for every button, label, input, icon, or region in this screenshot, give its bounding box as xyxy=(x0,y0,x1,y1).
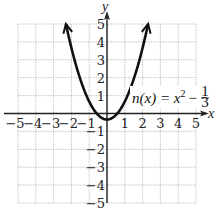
y-axis-label: y xyxy=(100,0,109,14)
svg-text:4: 4 xyxy=(97,35,105,50)
svg-text:3: 3 xyxy=(156,116,164,131)
svg-text:−5: −5 xyxy=(86,196,105,211)
svg-text:4: 4 xyxy=(174,116,182,131)
svg-text:−4: −4 xyxy=(86,178,105,193)
svg-text:5: 5 xyxy=(192,116,200,131)
svg-text:2: 2 xyxy=(97,71,105,86)
svg-text:−4: −4 xyxy=(23,116,42,131)
svg-text:−3: −3 xyxy=(86,160,105,175)
svg-text:−5: −5 xyxy=(5,116,24,131)
function-lhs: n(x) = x xyxy=(132,90,181,107)
svg-text:−2: −2 xyxy=(59,116,78,131)
function-exponent: 2 xyxy=(180,88,185,99)
svg-text:1: 1 xyxy=(121,116,129,131)
svg-text:−2: −2 xyxy=(86,142,105,157)
svg-text:1: 1 xyxy=(97,89,105,104)
function-label: n(x) = x2− 1 3 xyxy=(130,83,216,110)
function-minus: − xyxy=(188,90,196,106)
svg-text:−1: −1 xyxy=(86,124,105,139)
function-graph: −5−4−3−2−11234554321−1−2−3−4−5 x y n(x) … xyxy=(0,0,222,212)
svg-text:3: 3 xyxy=(97,53,105,68)
fraction-denominator: 3 xyxy=(201,94,209,110)
svg-text:−3: −3 xyxy=(41,116,60,131)
svg-text:2: 2 xyxy=(138,116,146,131)
svg-text:5: 5 xyxy=(97,17,105,32)
